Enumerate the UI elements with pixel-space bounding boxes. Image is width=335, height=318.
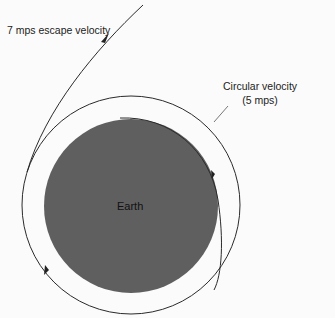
leader-line [214, 106, 228, 122]
orbit-diagram-graphic [0, 0, 335, 318]
earth-label: Earth [117, 200, 143, 212]
orbit-diagram: 7 mps escape velocity Circular velocity … [0, 0, 335, 318]
circular-velocity-label-line1: Circular velocity [223, 79, 297, 93]
circular-velocity-label: Circular velocity (5 mps) [223, 79, 297, 107]
escape-velocity-label: 7 mps escape velocity [7, 24, 110, 36]
circular-velocity-label-line2: (5 mps) [223, 93, 297, 107]
